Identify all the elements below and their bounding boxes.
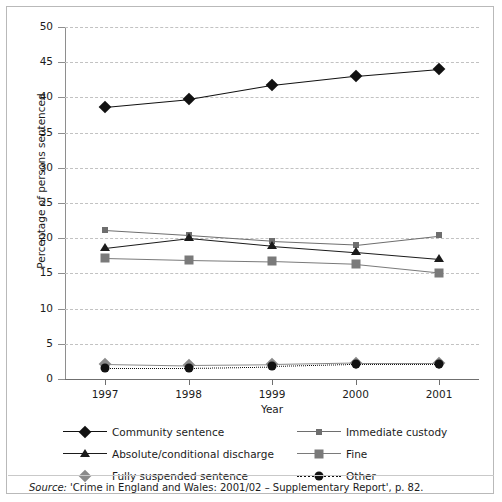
series-other <box>65 27 479 379</box>
y-axis-tick-mark <box>58 203 65 204</box>
legend-item-immediate-custody[interactable]: Immediate custody <box>297 424 447 440</box>
legend-label: Other <box>346 470 376 482</box>
x-axis-tick-mark <box>356 379 357 385</box>
legend-item-absolute-conditional-discharge[interactable]: Absolute/conditional discharge <box>63 446 274 462</box>
y-axis-tick-label: 0 <box>23 373 53 384</box>
x-axis-tick-label: 1997 <box>70 388 140 400</box>
series-line-segment <box>105 368 189 369</box>
legend-item-community-sentence[interactable]: Community sentence <box>63 424 224 440</box>
y-axis-tick-mark <box>58 379 65 380</box>
x-axis-tick-label: 1999 <box>237 388 307 400</box>
y-axis-tick-label: 15 <box>23 267 53 278</box>
source-note: Source: 'Crime in England and Wales: 200… <box>29 482 424 493</box>
legend-label: Fully suspended sentence <box>112 470 248 482</box>
y-axis-tick-label: 5 <box>23 338 53 349</box>
y-axis-tick-mark <box>58 168 65 169</box>
legend-item-fine[interactable]: Fine <box>297 446 367 462</box>
series-line-segment <box>356 364 440 365</box>
legend-swatch <box>297 425 341 439</box>
x-axis-tick-label: 2000 <box>321 388 391 400</box>
series-line-segment <box>189 366 273 368</box>
marker-circle <box>184 363 193 372</box>
y-axis-tick-mark <box>58 344 65 345</box>
y-axis-tick-mark <box>58 27 65 28</box>
plot-area <box>65 27 479 379</box>
legend-swatch <box>63 469 107 483</box>
source-label: Source: <box>29 482 67 493</box>
x-axis-title: Year <box>65 403 479 415</box>
legend-swatch <box>297 447 341 461</box>
marker-diamond <box>79 426 92 439</box>
legend-label: Community sentence <box>112 426 224 438</box>
y-axis-tick-mark <box>58 238 65 239</box>
x-axis-tick-mark <box>272 379 273 385</box>
marker-circle <box>268 362 277 371</box>
legend-label: Absolute/conditional discharge <box>112 448 274 460</box>
marker-circle <box>351 360 360 369</box>
y-axis-tick-labels: 05101520253035404550 <box>21 27 53 379</box>
legend-swatch <box>63 447 107 461</box>
y-axis-tick-label: 35 <box>23 127 53 138</box>
marker-circle <box>315 472 324 481</box>
legend-swatch <box>297 469 341 483</box>
marker-triangle <box>80 449 90 457</box>
marker-circle <box>435 360 444 369</box>
y-axis-tick-mark <box>58 62 65 63</box>
y-axis-tick-label: 20 <box>23 232 53 243</box>
y-axis-tick-mark <box>58 309 65 310</box>
x-axis-tick-mark <box>189 379 190 385</box>
marker-diamond <box>79 470 92 483</box>
y-axis-tick-label: 30 <box>23 162 53 173</box>
x-axis-tick-label: 1998 <box>154 388 224 400</box>
y-axis-tick-label: 50 <box>23 21 53 32</box>
source-divider <box>8 475 494 476</box>
legend-label: Immediate custody <box>346 426 447 438</box>
y-axis-tick-mark <box>58 97 65 98</box>
data-series-layer <box>65 27 479 379</box>
marker-small-square <box>316 429 322 435</box>
legend-label: Fine <box>346 448 367 460</box>
chart-legend: Community sentenceImmediate custodyAbsol… <box>35 424 475 478</box>
y-axis-tick-mark <box>58 273 65 274</box>
x-axis-tick-label: 2001 <box>404 388 474 400</box>
series-line-segment <box>272 364 356 367</box>
chart-figure: Percentage of persons sentenced 05101520… <box>6 6 494 494</box>
source-text: 'Crime in England and Wales: 2001/02 – S… <box>67 482 424 493</box>
x-axis-tick-mark <box>439 379 440 385</box>
marker-circle <box>101 363 110 372</box>
marker-large-square <box>315 450 324 459</box>
y-axis-tick-label: 45 <box>23 56 53 67</box>
y-axis-tick-label: 10 <box>23 303 53 314</box>
legend-swatch <box>63 425 107 439</box>
y-axis-tick-label: 40 <box>23 91 53 102</box>
y-axis-tick-mark <box>58 133 65 134</box>
y-axis-tick-label: 25 <box>23 197 53 208</box>
x-axis-tick-mark <box>105 379 106 385</box>
